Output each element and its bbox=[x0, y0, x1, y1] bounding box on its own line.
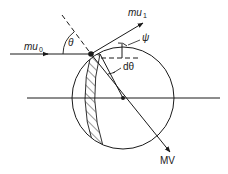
incidence-angle-label: θ bbox=[68, 38, 73, 48]
psi-leader-line bbox=[128, 40, 140, 45]
outgoing-momentum-text: mu bbox=[128, 7, 142, 18]
radius-line bbox=[100, 54, 123, 98]
deflection-angle-label: ψ bbox=[142, 33, 149, 43]
collision-diagram bbox=[0, 0, 228, 174]
dtheta-leader-line bbox=[113, 68, 121, 73]
outgoing-momentum-arrow bbox=[91, 23, 143, 54]
contact-point bbox=[88, 51, 94, 57]
hatched-region bbox=[85, 54, 103, 146]
outgoing-momentum-subscript: 1 bbox=[143, 12, 147, 19]
incoming-momentum-subscript: 0 bbox=[39, 46, 43, 53]
outgoing-momentum-label: mu1 bbox=[128, 8, 147, 19]
target-momentum-label: MV bbox=[160, 156, 175, 166]
dashed-normal-line bbox=[62, 15, 91, 54]
incoming-momentum-label: mu0 bbox=[24, 42, 43, 53]
angle-increment-label: dθ bbox=[123, 62, 134, 72]
incoming-momentum-text: mu bbox=[24, 41, 38, 52]
centre-point bbox=[121, 96, 125, 100]
